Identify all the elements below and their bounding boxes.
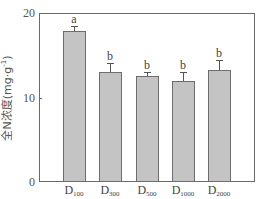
error-bar-cap (216, 60, 223, 61)
y-tick-label-0: 0 (13, 176, 35, 188)
x-tick-label: D300 (92, 184, 128, 199)
error-bar (219, 60, 220, 70)
bar-d100 (63, 31, 86, 182)
y-tick-label-10: 10 (13, 92, 35, 104)
y-tick-mark-10 (39, 98, 42, 99)
error-bar (183, 72, 184, 80)
error-bar-cap (107, 63, 114, 64)
x-tick-label: D2000 (201, 184, 237, 199)
x-tick-label: D1000 (165, 184, 201, 199)
error-bar-cap (71, 26, 78, 27)
error-bar-cap (144, 72, 151, 73)
bar-d300 (99, 72, 122, 182)
y-axis-label: 全N浓度(mg·g-1) (0, 38, 14, 158)
x-tick-label: D500 (129, 184, 165, 199)
significance-letter: a (64, 13, 84, 25)
significance-letter: b (173, 59, 193, 71)
bar-d2000 (208, 70, 231, 182)
significance-letter: b (137, 59, 157, 71)
significance-letter: b (209, 47, 229, 59)
bar-d500 (136, 76, 159, 182)
y-tick-label-20: 20 (13, 7, 35, 19)
x-tick-label: D100 (56, 184, 92, 199)
bar-chart: 全N浓度(mg·g-1) 20 10 0 aD100bD300bD500bD10… (0, 0, 263, 199)
significance-letter: b (100, 50, 120, 62)
error-bar-cap (180, 72, 187, 73)
bar-d1000 (172, 81, 195, 182)
error-bar (110, 63, 111, 72)
